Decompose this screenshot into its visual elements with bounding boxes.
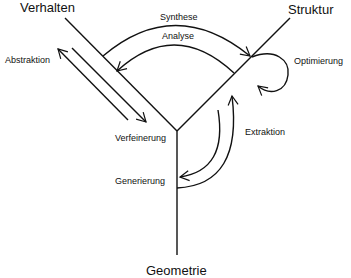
analysis-arrow xyxy=(117,45,234,73)
optimization-label: Optimierung xyxy=(294,57,343,66)
generation-label: Generierung xyxy=(115,177,165,186)
synthesis-label: Synthese xyxy=(160,13,198,22)
analysis-label: Analyse xyxy=(162,32,194,41)
refinement-arrow xyxy=(72,48,146,122)
generation-arrow xyxy=(180,110,220,177)
extraction-arrow xyxy=(177,96,234,188)
behavior-axis xyxy=(65,18,177,131)
geometry-label: Geometrie xyxy=(146,264,207,277)
abstraction-label: Abstraktion xyxy=(5,56,50,65)
refinement-label: Verfeinerung xyxy=(115,134,166,143)
extraction-label: Extraktion xyxy=(245,128,285,137)
abstraction-arrow xyxy=(58,49,128,120)
optimization-loop xyxy=(252,54,288,92)
structure-label: Struktur xyxy=(288,3,334,16)
behavior-label: Verhalten xyxy=(20,1,75,14)
